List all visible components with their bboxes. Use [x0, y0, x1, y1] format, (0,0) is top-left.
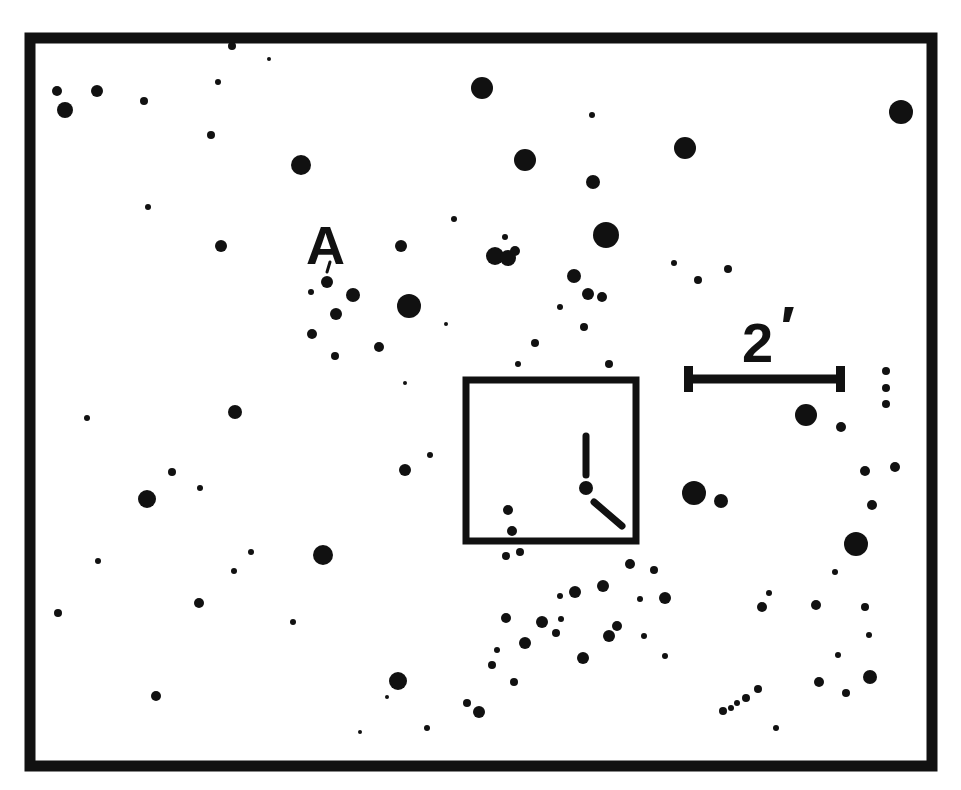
star [57, 102, 73, 118]
star [861, 603, 869, 611]
scale-value: 2 [742, 311, 773, 374]
star [510, 246, 520, 256]
star [519, 637, 531, 649]
star [516, 548, 524, 556]
star [501, 613, 511, 623]
chart-background [0, 0, 961, 790]
star [662, 653, 668, 659]
star [637, 596, 643, 602]
star [586, 175, 600, 189]
star [795, 404, 817, 426]
star [597, 580, 609, 592]
star [267, 57, 271, 61]
target-star-marker [579, 481, 593, 495]
star [536, 616, 548, 628]
star [313, 545, 333, 565]
star [215, 240, 227, 252]
star [494, 647, 500, 653]
star [589, 112, 595, 118]
star [207, 131, 215, 139]
scale-label: 2′ [742, 312, 792, 372]
star [742, 694, 750, 702]
star [403, 381, 407, 385]
star [719, 707, 727, 715]
star [138, 490, 156, 508]
scale-bar-left-cap [684, 366, 693, 392]
star [836, 422, 846, 432]
star [330, 308, 342, 320]
star [52, 86, 62, 96]
star [593, 222, 619, 248]
star [603, 630, 615, 642]
star [567, 269, 581, 283]
star [515, 361, 521, 367]
star [867, 500, 877, 510]
star [757, 602, 767, 612]
star [395, 240, 407, 252]
star [151, 691, 161, 701]
star [503, 505, 513, 515]
star [374, 342, 384, 352]
star [358, 730, 362, 734]
star [728, 705, 734, 711]
star [95, 558, 101, 564]
star [882, 367, 890, 375]
star [811, 600, 821, 610]
star [835, 652, 841, 658]
star [889, 100, 913, 124]
star [882, 384, 890, 392]
star [612, 621, 622, 631]
star [671, 260, 677, 266]
star [832, 569, 838, 575]
star [890, 462, 900, 472]
star [814, 677, 824, 687]
star [145, 204, 151, 210]
star [473, 706, 485, 718]
star [424, 725, 430, 731]
star [558, 616, 564, 622]
star [228, 405, 242, 419]
star [557, 593, 563, 599]
star [502, 552, 510, 560]
star [397, 294, 421, 318]
star [444, 322, 448, 326]
star [766, 590, 772, 596]
star [471, 77, 493, 99]
star [773, 725, 779, 731]
star [882, 400, 890, 408]
star [514, 149, 536, 171]
star [734, 700, 740, 706]
star [714, 494, 728, 508]
star [641, 633, 647, 639]
star [307, 329, 317, 339]
star [168, 468, 176, 476]
star [228, 42, 236, 50]
star [346, 288, 360, 302]
star [451, 216, 457, 222]
star [197, 485, 203, 491]
star [215, 79, 221, 85]
star [625, 559, 635, 569]
star [674, 137, 696, 159]
star [91, 85, 103, 97]
star [659, 592, 671, 604]
star [531, 339, 539, 347]
star [605, 360, 613, 368]
star [724, 265, 732, 273]
star [597, 292, 607, 302]
star [863, 670, 877, 684]
finder-chart [0, 0, 961, 790]
star [488, 661, 496, 669]
star [577, 652, 589, 664]
star [463, 699, 471, 707]
star [650, 566, 658, 574]
star [84, 415, 90, 421]
star [308, 289, 314, 295]
star [507, 526, 517, 536]
star [582, 288, 594, 300]
star [248, 549, 254, 555]
star [231, 568, 237, 574]
star [557, 304, 563, 310]
scale-bar-right-cap [836, 366, 845, 392]
star [844, 532, 868, 556]
